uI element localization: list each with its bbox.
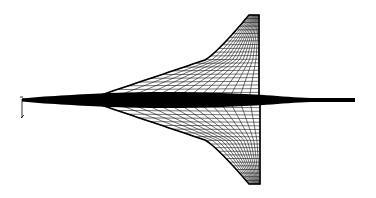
aircraft-wireframe	[0, 0, 376, 198]
lower-wing-mesh	[95, 103, 260, 184]
wireframe-figure: Delta-wing aircraft wireframe surface me…	[0, 0, 376, 198]
upper-wing-mesh	[95, 15, 259, 97]
fuselage	[22, 92, 355, 108]
